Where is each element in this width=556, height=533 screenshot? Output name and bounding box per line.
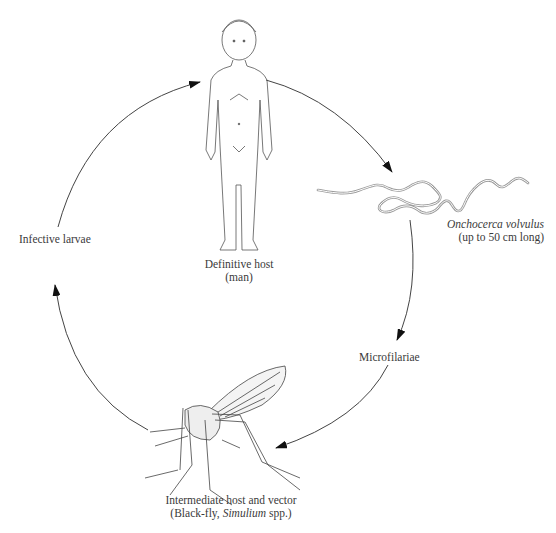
label-microfilariae: Microfilariae [359, 351, 420, 364]
worm-icon [318, 178, 528, 213]
human-figure-icon [206, 20, 272, 250]
arrow-fly-to-larvae [55, 285, 148, 430]
label-definitive-host: Definitive host (man) [191, 258, 287, 284]
label-vector: Intermediate host and vector (Black-fly,… [158, 494, 304, 520]
black-fly-icon [145, 366, 300, 505]
arrow-worm-to-microfilariae [397, 220, 413, 340]
label-adult-worm: Onchocerca volvulus (up to 50 cm long) [420, 218, 544, 244]
arrow-larvae-to-man [58, 82, 200, 227]
label-infective-larvae: Infective larvae [19, 233, 91, 246]
arrow-microfilariae-to-fly [276, 365, 388, 448]
arrow-man-to-worm [266, 80, 392, 172]
